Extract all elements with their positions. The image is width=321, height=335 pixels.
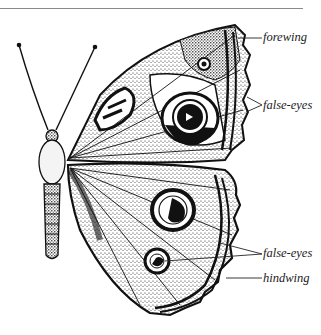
- body: [39, 130, 65, 259]
- label-false-eyes-upper: false-eyes: [263, 99, 312, 112]
- label-hindwing: hindwing: [263, 272, 310, 285]
- label-forewing: forewing: [263, 31, 307, 44]
- false-eye-hindwing-large: [152, 190, 194, 230]
- antennae: [17, 43, 96, 130]
- label-false-eyes-lower: false-eyes: [263, 247, 312, 260]
- hindwing: [68, 163, 240, 315]
